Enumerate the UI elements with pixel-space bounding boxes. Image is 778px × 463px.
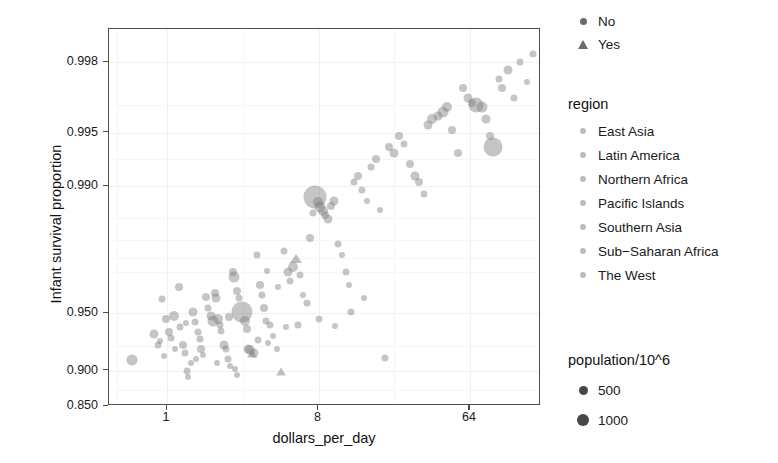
circle-icon [580,18,587,25]
data-point-circle [236,294,243,301]
data-point-circle [377,207,383,213]
data-point-circle [495,76,502,83]
size-legend: population/10^6 5001000 [568,352,670,435]
y-tick-label: 0.995 [67,125,98,139]
gridline-horizontal-minor [109,390,539,391]
y-tick-mark [103,369,108,370]
region-legend-item[interactable]: The West [568,263,718,287]
y-tick-mark [103,131,108,132]
data-point-triangle [276,367,286,375]
gridline-vertical [470,29,471,404]
data-point-circle [477,102,488,113]
data-point-circle [169,311,179,321]
data-point-circle [191,319,198,326]
region-legend-key [568,200,598,206]
gridline-vertical-minor [117,29,118,404]
data-point-circle [225,313,233,321]
gridline-horizontal [109,62,539,63]
data-point-circle [281,248,288,255]
plot-panel [108,28,540,405]
size-legend-item[interactable]: 500 [568,375,670,405]
region-legend-key [568,248,598,254]
region-legend-label: East Asia [598,124,654,139]
circle-icon [579,386,588,395]
region-legend-label: Pacific Islands [598,196,684,211]
data-point-circle [214,360,220,366]
data-point-circle [274,346,280,352]
region-legend-item[interactable]: East Asia [568,119,718,143]
data-point-circle [323,214,332,223]
data-point-circle [420,190,427,197]
data-point-circle [172,346,178,352]
data-point-circle [482,115,491,124]
y-axis-title: Infant survival proportion [48,64,64,384]
shape-legend-key [568,18,598,25]
region-legend-label: Southern Asia [598,220,682,235]
circle-icon [580,128,586,134]
data-point-circle [161,353,167,359]
y-tick-mark [103,61,108,62]
y-tick-label: 0.850 [67,398,98,412]
data-point-circle [260,304,268,312]
data-point-circle [168,335,175,342]
data-point-circle [459,84,467,92]
data-point-circle [372,155,380,163]
region-legend-item[interactable]: Northern Africa [568,167,718,191]
data-point-circle [517,59,524,66]
region-legend-item[interactable]: Latin America [568,143,718,167]
y-tick-label: 0.900 [67,363,98,377]
size-legend-label: 1000 [598,413,628,428]
data-point-circle [406,160,414,168]
shape-legend-label: Yes [598,37,620,52]
x-tick-mark [468,405,469,410]
gridline-horizontal-minor [109,258,539,259]
data-point-circle [149,329,158,338]
data-point-circle [524,79,530,85]
gridline-vertical-minor [394,29,395,404]
data-point-circle [306,234,314,242]
gridline-horizontal-minor [109,159,539,160]
data-point-circle [181,350,188,357]
data-point-circle [204,305,211,312]
data-point-circle [265,340,271,346]
triangle-icon [578,40,588,49]
data-point-circle [200,352,206,358]
data-point-circle [229,272,240,283]
shape-legend-key [568,40,598,49]
data-point-circle [286,278,293,285]
x-tick-mark [317,405,318,410]
data-point-circle [175,283,183,291]
data-point-circle [448,126,456,134]
x-tick-label: 1 [163,410,170,424]
data-point-circle [339,252,345,258]
gridline-horizontal [109,186,539,187]
y-tick-mark [103,185,108,186]
data-point-circle [234,372,240,378]
data-point-circle [504,65,513,74]
data-point-circle [364,198,370,204]
x-tick-label: 8 [314,410,321,424]
data-point-circle [389,149,398,158]
shape-legend-item-no[interactable]: No [568,10,620,33]
region-legend-label: Latin America [598,148,680,163]
data-point-circle [401,141,408,148]
data-point-circle [297,271,304,278]
data-point-circle [224,356,231,363]
size-legend-item[interactable]: 1000 [568,405,670,435]
data-point-circle [179,341,187,349]
region-legend-item[interactable]: Sub−Saharan Africa [568,239,718,263]
data-point-circle [270,333,276,339]
region-legend-item[interactable]: Pacific Islands [568,191,718,215]
data-point-circle [303,299,310,306]
data-point-circle [330,196,339,205]
data-point-circle [395,132,403,140]
data-point-circle [354,172,362,180]
data-point-circle [275,284,281,290]
data-point-circle [348,308,355,315]
data-point-circle [300,292,306,298]
data-point-circle [202,293,210,301]
shape-legend-label: No [598,14,615,29]
region-legend-item[interactable]: Southern Asia [568,215,718,239]
shape-legend-item-yes[interactable]: Yes [568,33,620,56]
data-point-circle [415,178,423,186]
